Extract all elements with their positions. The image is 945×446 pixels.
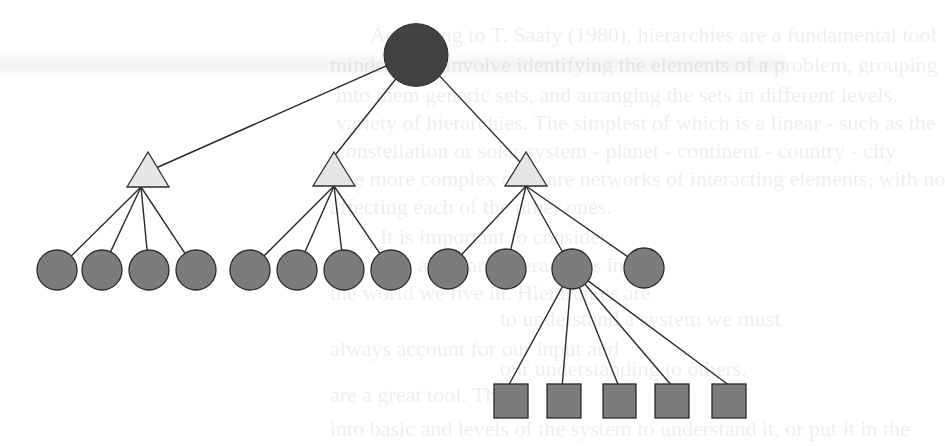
tree-edge [579,288,617,384]
tree-edges [71,65,727,384]
tree-edge [141,187,147,250]
sub-leaf-node-square [712,384,746,418]
tree-edge [439,75,520,162]
leaf-node-circle [37,250,77,290]
tree-edge [264,186,334,256]
leaf-node-circle [428,249,468,289]
tree-edge [562,289,570,384]
tree-edge [336,78,396,154]
leaf-node-circle [176,250,216,290]
tree-edge [141,187,185,253]
leaf-node-circle [371,250,411,290]
tree-edge [526,186,562,252]
leaf-node-circle [552,249,592,289]
tree-edge [71,187,141,256]
tree-edge [511,186,526,250]
intermediate-node-triangle [313,152,355,186]
tree-edge [462,186,526,254]
intermediate-node-triangle [505,152,547,186]
tree-edge [526,186,628,257]
tree-edge [509,287,562,384]
tree-edge [156,65,387,168]
tree-edge [305,186,334,252]
sub-leaf-node-square [655,384,689,418]
leaf-node-circle [486,249,526,289]
leaf-node-circle [324,250,364,290]
leaf-node-circle [277,250,317,290]
tree-nodes [37,24,746,418]
leaf-node-circle [129,250,169,290]
sub-leaf-node-square [603,384,636,418]
leaf-node-circle [82,250,122,290]
intermediate-node-triangle [127,152,169,187]
root-node-circle [384,24,448,87]
leaf-node-circle [230,250,270,290]
tree-edge [111,187,141,252]
sub-leaf-node-square [547,384,581,418]
sub-leaf-node-square [494,384,528,418]
leaf-node-circle [624,248,664,288]
